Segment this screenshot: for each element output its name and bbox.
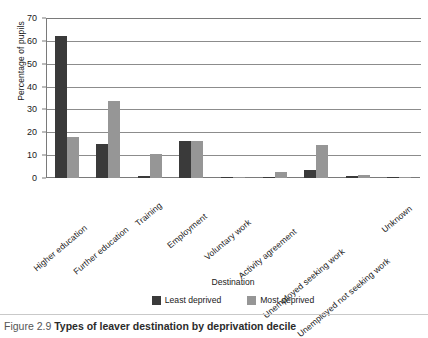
bar-group (295, 18, 337, 178)
y-axis-tick-label: 0 (32, 173, 37, 183)
bar-groups (46, 18, 420, 178)
bar (179, 141, 191, 178)
legend-swatch (152, 296, 161, 305)
y-axis-tick-label: 50 (27, 59, 37, 69)
bar-group (46, 18, 88, 178)
x-axis-tick-label: Voluntary work (247, 180, 298, 225)
legend-swatch (247, 296, 256, 305)
caption-divider (0, 314, 428, 315)
x-axis-tick-label-text: Voluntary work (202, 217, 253, 262)
x-axis-tick-label-text: Activity agreement (236, 227, 298, 281)
legend-item: Most deprived (247, 295, 314, 305)
bar-group (129, 18, 171, 178)
y-axis-tick-label: 60 (27, 36, 37, 46)
bar-group (88, 18, 130, 178)
bar-group (171, 18, 213, 178)
bar (108, 101, 120, 178)
bar (150, 154, 162, 178)
y-axis-tick-label: 30 (27, 104, 37, 114)
bar (346, 176, 358, 178)
chart-legend: Least deprivedMost deprived (46, 295, 420, 305)
y-axis-tick-label: 10 (27, 150, 37, 160)
bar (275, 172, 287, 178)
x-axis-tick-label-text: Employment (165, 211, 209, 250)
bar (316, 145, 328, 178)
x-axis-title: Destination (46, 277, 420, 287)
x-axis-tick-label: Employment (203, 180, 247, 219)
bar (191, 141, 203, 178)
figure-caption: Figure 2.9 Types of leaver destination b… (4, 320, 424, 332)
legend-item: Least deprived (152, 295, 221, 305)
figure-number: Figure 2.9 (4, 320, 51, 332)
x-axis-tick-label: Activity agreement (292, 180, 354, 234)
y-axis-ticks: 010203040506070 (0, 18, 46, 178)
bar-group (212, 18, 254, 178)
bar (221, 177, 233, 178)
figure-title: Types of leaver destination by deprivati… (54, 320, 296, 332)
bar (67, 137, 79, 178)
legend-label: Most deprived (260, 295, 314, 305)
bar (263, 177, 275, 178)
y-axis-tick-label: 40 (27, 82, 37, 92)
bar (96, 144, 108, 178)
bar (399, 177, 411, 178)
legend-label: Least deprived (165, 295, 221, 305)
bar-group (379, 18, 421, 178)
bar-group (337, 18, 379, 178)
bar (387, 177, 399, 178)
bar (138, 176, 150, 178)
y-axis-tick-label: 20 (27, 127, 37, 137)
figure-chart: Percentage of pupils 010203040506070 Hig… (0, 0, 428, 312)
bar (304, 170, 316, 178)
bar-group (254, 18, 296, 178)
bar (233, 177, 245, 178)
x-axis-tick-labels: Higher educationFurther educationTrainin… (46, 180, 420, 275)
bar (55, 36, 67, 178)
y-axis-tick-label: 70 (27, 13, 37, 23)
bar (358, 175, 370, 178)
